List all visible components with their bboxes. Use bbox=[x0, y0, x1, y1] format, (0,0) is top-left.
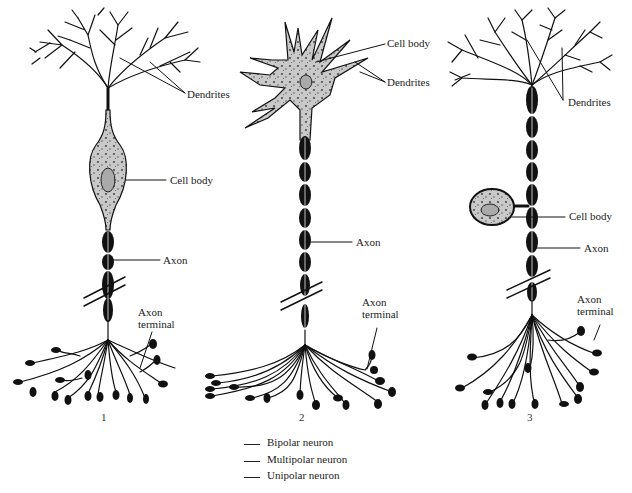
neuron-1-nucleus bbox=[101, 168, 115, 192]
neuron-1-number: 1 bbox=[101, 411, 107, 423]
answer-blank[interactable] bbox=[244, 444, 260, 445]
neuron-1-label-axon-terminal-2: terminal bbox=[138, 318, 175, 330]
answer-key-label: Multipolar neuron bbox=[267, 453, 347, 465]
neuron-2-label-axon-terminal-1: Axon bbox=[362, 296, 386, 308]
neuron-2-number: 2 bbox=[299, 411, 305, 423]
neuron-3-unipolar bbox=[448, 8, 612, 410]
neuron-3-axon-terminals bbox=[462, 302, 596, 405]
neuron-1-dendrites bbox=[30, 8, 200, 110]
neuron-3-label-axon: Axon bbox=[584, 242, 608, 254]
neuron-2-label-cell-body: Cell body bbox=[387, 37, 430, 49]
neuron-illustration bbox=[0, 0, 632, 493]
neuron-1-label-dendrites: Dendrites bbox=[187, 88, 230, 100]
answer-key-item-unipolar: Unipolar neuron bbox=[244, 469, 339, 481]
answer-key-item-bipolar: Bipolar neuron bbox=[244, 436, 333, 448]
answer-key-label: Unipolar neuron bbox=[267, 469, 339, 481]
answer-key-label: Bipolar neuron bbox=[267, 436, 333, 448]
neuron-1-label-axon-terminal-1: Axon bbox=[138, 306, 162, 318]
neuron-3-label-axon-terminal-2: terminal bbox=[577, 305, 614, 317]
neuron-2-label-dendrites: Dendrites bbox=[387, 76, 430, 88]
neuron-2-label-axon-terminal-2: terminal bbox=[362, 308, 399, 320]
neuron-1-label-axon: Axon bbox=[163, 254, 187, 266]
neuron-2-label-axon: Axon bbox=[356, 236, 380, 248]
answer-key-item-multipolar: Multipolar neuron bbox=[244, 453, 347, 465]
neuron-2-nucleus bbox=[300, 75, 312, 89]
neuron-1-label-cell-body: Cell body bbox=[170, 174, 213, 186]
answer-blank[interactable] bbox=[244, 477, 260, 478]
neuron-3-dendrites bbox=[448, 8, 612, 86]
neuron-3-label-cell-body: Cell body bbox=[569, 210, 612, 222]
neuron-1-bipolar bbox=[13, 8, 200, 405]
neuron-3-number: 3 bbox=[527, 411, 533, 423]
neuron-diagram: Dendrites Cell body Axon Axon terminal 1… bbox=[0, 0, 632, 493]
neuron-3-nucleus bbox=[481, 204, 499, 216]
answer-blank[interactable] bbox=[244, 461, 260, 462]
neuron-3-label-dendrites: Dendrites bbox=[568, 96, 611, 108]
neuron-3-label-axon-terminal-1: Axon bbox=[577, 293, 601, 305]
neuron-2-multipolar bbox=[205, 18, 396, 410]
